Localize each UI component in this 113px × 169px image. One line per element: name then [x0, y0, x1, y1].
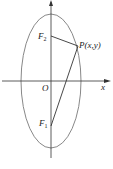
label-f1: F1 [38, 118, 48, 129]
label-origin: O [42, 83, 49, 93]
y-axis-arrow [49, 0, 53, 6]
label-x-axis: x [100, 82, 105, 92]
ellipse-diagram: F2 P(x,y) O x F1 [0, 0, 113, 169]
label-point: P(x,y) [78, 40, 101, 50]
label-f2: F2 [37, 31, 47, 42]
segment-f1-p [51, 46, 78, 126]
x-axis-arrow [104, 79, 111, 83]
